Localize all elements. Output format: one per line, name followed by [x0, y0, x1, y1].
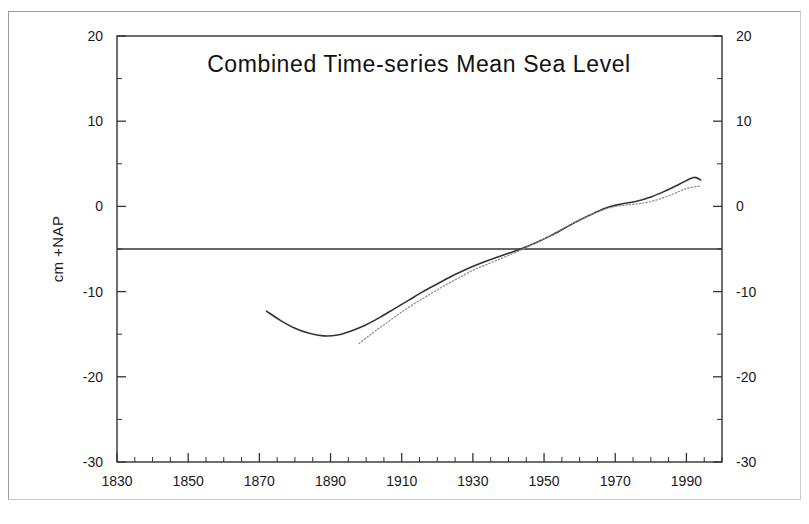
- axis-tick-label: -10: [736, 284, 756, 300]
- axis-tick-label: 10: [87, 113, 103, 129]
- axis-tick-label: 0: [736, 198, 744, 214]
- y-axis-title: cm +NAP: [49, 216, 66, 283]
- chart-title: Combined Time-series Mean Sea Level: [207, 51, 631, 77]
- axis-tick-label: 20: [736, 28, 752, 44]
- axis-tick-label: 1890: [315, 473, 346, 489]
- y-axis-left-tick-labels: 20100-10-20-30: [83, 28, 103, 470]
- axis-tick-label: 1970: [600, 473, 631, 489]
- series-line-1: [359, 186, 701, 344]
- chart-series: [266, 177, 700, 343]
- axis-tick-label: 1990: [671, 473, 702, 489]
- axis-tick-label: 1850: [173, 473, 204, 489]
- axis-tick-label: 20: [87, 28, 103, 44]
- axis-tick-label: -30: [83, 454, 103, 470]
- axis-tick-label: 1930: [457, 473, 488, 489]
- axis-tick-label: 1830: [101, 473, 132, 489]
- axis-tick-label: 1870: [244, 473, 275, 489]
- chart-svg: 20100-10-20-30 20100-10-20-30 1830185018…: [0, 0, 809, 524]
- axis-tick-label: -10: [83, 284, 103, 300]
- axis-tick-label: 0: [95, 198, 103, 214]
- axis-tick-label: -20: [736, 369, 756, 385]
- axis-tick-label: 1910: [386, 473, 417, 489]
- x-axis-tick-labels: 183018501870189019101930195019701990: [101, 473, 702, 489]
- x-axis-ticks: [117, 453, 722, 462]
- series-line-0: [266, 177, 700, 336]
- figure-page: 20100-10-20-30 20100-10-20-30 1830185018…: [0, 0, 809, 524]
- axis-tick-label: -30: [736, 454, 756, 470]
- chart-figure: 20100-10-20-30 20100-10-20-30 1830185018…: [0, 0, 809, 524]
- y-axis-right-tick-labels: 20100-10-20-30: [736, 28, 756, 470]
- axis-tick-label: -20: [83, 369, 103, 385]
- axis-tick-label: 10: [736, 113, 752, 129]
- axis-tick-label: 1950: [528, 473, 559, 489]
